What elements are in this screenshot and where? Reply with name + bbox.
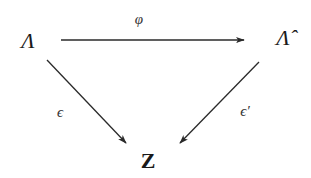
node-lambda-hat: Λ̂ (276, 27, 289, 49)
node-lambda: Λ (21, 30, 34, 52)
arrows-layer (0, 0, 311, 178)
node-z: Z (141, 150, 156, 172)
label-phi: φ (135, 12, 143, 27)
arrow-epsilon (47, 60, 126, 143)
label-epsilon-prime: ϵ′ (240, 104, 249, 119)
label-epsilon: ϵ (57, 105, 63, 120)
commutative-diagram: Λ Λ̂ Z φ ϵ ϵ′ (0, 0, 311, 178)
